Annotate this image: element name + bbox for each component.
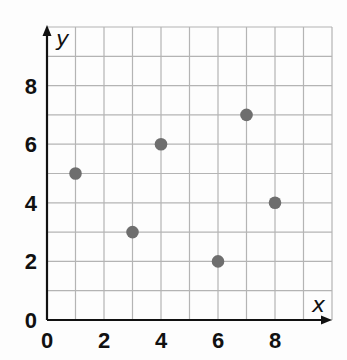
x-tick-label: 8	[269, 328, 281, 353]
y-tick-label: 8	[25, 74, 37, 99]
data-point	[155, 138, 168, 151]
y-tick-label: 6	[25, 132, 37, 157]
scatter-chart: 0246802468 x y	[0, 0, 347, 360]
x-axis-label: x	[311, 292, 326, 317]
x-tick-label: 0	[41, 328, 53, 353]
data-point	[269, 197, 282, 210]
data-point	[69, 167, 82, 180]
x-tick-label: 6	[212, 328, 224, 353]
data-point	[240, 109, 253, 122]
y-tick-label: 0	[25, 308, 37, 333]
data-point	[126, 226, 139, 239]
y-axis-label: y	[55, 26, 70, 51]
data-point	[212, 255, 225, 268]
y-tick-label: 2	[25, 249, 37, 274]
x-tick-label: 4	[155, 328, 168, 353]
y-tick-label: 4	[25, 191, 38, 216]
axes	[43, 25, 333, 325]
grid-lines	[47, 27, 332, 320]
x-tick-label: 2	[98, 328, 110, 353]
data-points	[69, 109, 281, 268]
